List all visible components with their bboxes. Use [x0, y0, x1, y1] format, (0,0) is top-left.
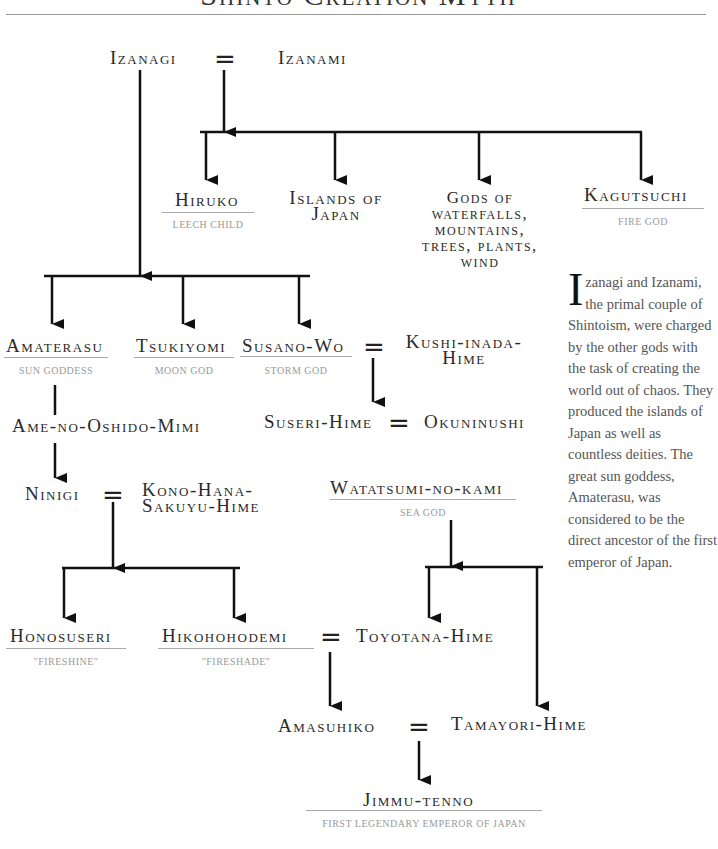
person-amasuhiko: Amasuhiko: [278, 716, 375, 735]
person-izanagi: Izanagi: [110, 48, 177, 67]
person-okuninushi: Okuninushi: [424, 412, 525, 431]
subtitle-susano-wo: Storm god: [240, 365, 352, 376]
person-tamayori-hime: Tamayori-Hime: [451, 714, 587, 733]
person-ninigi: Ninigi: [25, 484, 80, 503]
subtitle-kagutsuchi: Fire god: [582, 216, 704, 227]
marriage-symbol: =: [320, 624, 342, 650]
marriage-symbol: =: [363, 334, 385, 360]
divider: [134, 357, 234, 358]
person-gods-of-nature: Gods of waterfalls, mountains, trees, pl…: [414, 190, 546, 270]
person-kushi-inada-hime: Kushi-inada-Hime: [398, 334, 530, 366]
divider: [6, 648, 126, 649]
divider: [4, 357, 108, 358]
person-hiruko: Hiruko: [175, 190, 239, 209]
person-islands-of-japan: Islands of Japan: [282, 190, 390, 222]
divider: [240, 356, 352, 357]
person-kagutsuchi: Kagutsuchi: [584, 185, 688, 204]
marriage-symbol: =: [102, 482, 124, 508]
marriage-symbol: =: [408, 714, 430, 740]
subtitle-tsukiyomi: Moon god: [134, 365, 234, 376]
person-kono-hana-sakuyu-hime: Kono-Hana-Sakuyu-Hime: [142, 482, 272, 514]
marriage-symbol: =: [214, 46, 236, 72]
subtitle-honosuseri: "Fireshine": [6, 656, 126, 667]
marriage-symbol: =: [388, 410, 410, 436]
person-amaterasu: Amaterasu: [6, 336, 103, 355]
description-paragraph: Izanagi and Izanami, the primal couple o…: [568, 272, 718, 573]
divider: [158, 648, 314, 649]
subtitle-amaterasu: Sun goddess: [4, 365, 108, 376]
divider: [582, 208, 704, 209]
description-text: zanagi and Izanami, the primal couple of…: [568, 274, 717, 570]
person-honosuseri: Honosuseri: [10, 626, 112, 645]
person-watatsumi-no-kami: Watatsumi-no-kami: [330, 478, 503, 497]
person-toyotana-hime: Toyotana-Hime: [356, 626, 494, 645]
subtitle-jimmu-tenno: First legendary emperor of Japan: [306, 818, 542, 829]
divider: [330, 499, 516, 500]
person-suseri-hime: Suseri-Hime: [264, 412, 373, 431]
divider: [162, 212, 254, 213]
person-susano-wo: Susano-Wo: [242, 336, 345, 355]
subtitle-hiruko: Leech child: [162, 219, 254, 230]
person-ame-no-oshido-mimi: Ame-no-Oshido-Mimi: [12, 416, 201, 435]
person-izanami: Izanami: [278, 48, 347, 67]
person-jimmu-tenno: Jimmu-tenno: [363, 790, 474, 809]
person-hikohohodemi: Hikohohodemi: [162, 626, 288, 645]
drop-cap: I: [568, 272, 583, 308]
divider: [306, 810, 542, 811]
subtitle-hikohohodemi: "Fireshade": [158, 656, 314, 667]
person-tsukiyomi: Tsukiyomi: [136, 336, 226, 355]
subtitle-watatsumi: Sea god: [330, 507, 516, 518]
